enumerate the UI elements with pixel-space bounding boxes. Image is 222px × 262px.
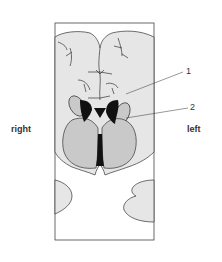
callout-number-1: 1 [186, 66, 191, 76]
side-label-right: right [11, 124, 31, 134]
callout-number-2: 2 [190, 102, 195, 112]
side-label-left: left [187, 124, 201, 134]
